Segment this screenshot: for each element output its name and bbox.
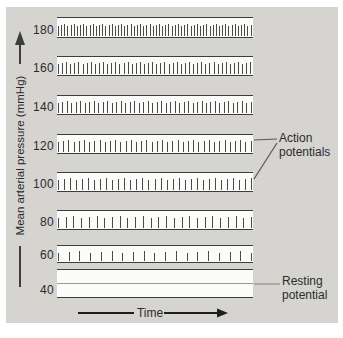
spike bbox=[68, 140, 69, 152]
spike bbox=[134, 101, 135, 113]
spike bbox=[251, 253, 252, 261]
spike bbox=[98, 103, 99, 113]
spike bbox=[89, 217, 90, 228]
spike bbox=[218, 64, 219, 74]
spike bbox=[236, 216, 237, 228]
spike-train-60 bbox=[58, 251, 252, 261]
spike bbox=[58, 218, 59, 228]
spike bbox=[86, 26, 87, 36]
trace-band-40 bbox=[57, 269, 253, 298]
spike bbox=[63, 141, 64, 152]
spike bbox=[91, 62, 92, 74]
spike bbox=[124, 26, 125, 36]
spike bbox=[64, 24, 65, 36]
spike bbox=[244, 24, 245, 36]
spike bbox=[74, 63, 75, 74]
spike bbox=[94, 180, 95, 190]
spike bbox=[189, 216, 190, 228]
spike bbox=[219, 141, 220, 152]
spike bbox=[200, 26, 201, 36]
spike bbox=[126, 141, 127, 152]
spike bbox=[209, 179, 210, 190]
spike bbox=[79, 251, 80, 261]
spike bbox=[139, 103, 140, 113]
spike bbox=[164, 62, 165, 74]
spike bbox=[103, 62, 104, 74]
spike bbox=[201, 62, 202, 74]
spike bbox=[227, 179, 228, 190]
spike bbox=[82, 179, 83, 190]
spike bbox=[154, 253, 155, 261]
spike bbox=[228, 217, 229, 228]
spike bbox=[215, 178, 216, 190]
spike bbox=[251, 25, 252, 36]
spike bbox=[112, 24, 113, 36]
trace-band-60 bbox=[57, 245, 253, 263]
spike bbox=[71, 25, 72, 36]
spike bbox=[152, 103, 153, 113]
spike bbox=[143, 102, 144, 113]
spike bbox=[175, 101, 176, 113]
spike bbox=[191, 26, 192, 36]
spike bbox=[100, 179, 101, 190]
spike bbox=[172, 141, 173, 152]
spike bbox=[202, 101, 203, 113]
spike bbox=[70, 178, 71, 190]
pressure-label-40: 40 bbox=[18, 284, 54, 297]
baroreceptor-figure: Mean arterial pressure (mmHg) 1801601401… bbox=[0, 0, 343, 338]
spike bbox=[97, 216, 98, 228]
spike bbox=[224, 102, 225, 113]
spike bbox=[146, 140, 147, 152]
spike bbox=[81, 218, 82, 228]
spike bbox=[76, 102, 77, 113]
time-label: Time bbox=[135, 306, 165, 320]
spike bbox=[162, 140, 163, 152]
spike bbox=[109, 25, 110, 36]
spike bbox=[193, 140, 194, 152]
spike bbox=[62, 63, 63, 74]
pressure-label-180: 180 bbox=[18, 24, 54, 37]
spike bbox=[219, 103, 220, 113]
spike bbox=[76, 180, 77, 190]
spike bbox=[198, 142, 199, 152]
spike bbox=[242, 64, 243, 74]
spike bbox=[183, 142, 184, 152]
spike bbox=[219, 253, 220, 261]
spike bbox=[165, 252, 166, 261]
spike bbox=[241, 25, 242, 36]
spike bbox=[152, 62, 153, 74]
spike bbox=[112, 217, 113, 228]
spike bbox=[74, 142, 75, 152]
spike bbox=[155, 179, 156, 190]
spike bbox=[214, 142, 215, 152]
spike bbox=[58, 180, 59, 190]
spike bbox=[150, 24, 151, 36]
spike bbox=[156, 64, 157, 74]
spike bbox=[222, 63, 223, 74]
spike bbox=[197, 218, 198, 228]
spike bbox=[194, 25, 195, 36]
spike bbox=[94, 141, 95, 152]
spike bbox=[137, 25, 138, 36]
spike bbox=[197, 63, 198, 74]
spike bbox=[112, 103, 113, 113]
spike bbox=[243, 218, 244, 228]
spike bbox=[58, 26, 59, 36]
trace-band-120 bbox=[57, 134, 253, 154]
spike bbox=[122, 253, 123, 261]
spike bbox=[69, 252, 70, 261]
spike bbox=[185, 63, 186, 74]
spike bbox=[90, 253, 91, 261]
pressure-label-160: 160 bbox=[18, 62, 54, 75]
spike bbox=[107, 64, 108, 74]
spike bbox=[210, 26, 211, 36]
spike bbox=[64, 179, 65, 190]
spike bbox=[121, 24, 122, 36]
spike bbox=[90, 25, 91, 36]
spike bbox=[136, 63, 137, 74]
spike-train-120 bbox=[58, 140, 252, 152]
spike bbox=[166, 103, 167, 113]
spike bbox=[62, 102, 63, 113]
spike bbox=[239, 180, 240, 190]
spike bbox=[216, 24, 217, 36]
